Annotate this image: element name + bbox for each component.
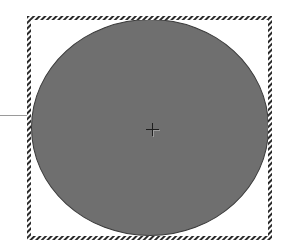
connector-line[interactable] [0,115,29,116]
drawing-canvas[interactable] [0,0,288,244]
crosshair-icon[interactable] [146,123,159,136]
crosshair-highlight [153,130,160,137]
